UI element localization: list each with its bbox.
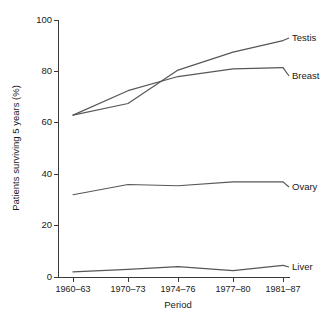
x-tick-label-1974-76: 1974–76 xyxy=(160,284,195,294)
leader-line-ovary xyxy=(283,182,289,187)
x-tick-label-1970-73: 1970–73 xyxy=(110,284,145,294)
x-tick-label-1981-87: 1981–87 xyxy=(265,284,300,294)
series-label-breast: Breast xyxy=(292,70,320,81)
line-chart: Patients surviving 5 years (%) 0 20 40 6… xyxy=(0,0,334,320)
y-tick-label-100: 100 xyxy=(36,14,52,25)
x-tick-label-1960-63: 1960–63 xyxy=(55,284,90,294)
y-tick-label-60: 60 xyxy=(41,116,52,127)
leader-line-testis xyxy=(283,38,289,41)
x-tick-label-1977-80: 1977–80 xyxy=(215,284,250,294)
series-line-liver xyxy=(73,265,283,271)
series-label-testis: Testis xyxy=(292,32,317,43)
chart-figure: Patients surviving 5 years (%) 0 20 40 6… xyxy=(0,0,334,320)
leader-line-liver xyxy=(283,265,289,267)
y-tick-label-0: 0 xyxy=(47,271,52,282)
series-line-ovary xyxy=(73,182,283,195)
plot-axes xyxy=(59,20,291,278)
series-label-ovary: Ovary xyxy=(292,181,318,192)
series-line-testis xyxy=(73,41,283,116)
y-tick-label-20: 20 xyxy=(41,219,52,230)
leader-line-breast xyxy=(283,68,289,76)
y-tick-label-40: 40 xyxy=(41,168,52,179)
y-axis-title: Patients surviving 5 years (%) xyxy=(10,85,21,211)
x-axis-title: Period xyxy=(164,299,191,310)
y-tick-label-80: 80 xyxy=(41,65,52,76)
series-label-liver: Liver xyxy=(292,261,313,272)
